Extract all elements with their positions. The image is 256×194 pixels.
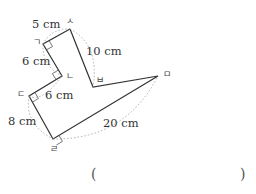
length-label-sb: 10 cm: [86, 46, 122, 58]
vertex-label-r: ㄹ: [50, 145, 58, 154]
vertex-label-d: ㄷ: [17, 90, 25, 99]
length-label-dr: 8 cm: [8, 116, 36, 128]
length-label-gs: 5 cm: [32, 19, 60, 31]
vertex-label-n: ㄴ: [66, 72, 74, 81]
vertex-label-g: ㄱ: [33, 38, 41, 47]
answer-paren-close: ): [240, 167, 245, 181]
answer-paren-open: (: [91, 167, 96, 181]
vertex-label-b: ㅂ: [96, 76, 104, 85]
vertex-label-s: ㅅ: [66, 17, 74, 26]
length-label-nd: 6 cm: [45, 90, 73, 102]
length-label-gn: 6 cm: [22, 56, 50, 68]
length-label-rm: 20 cm: [103, 118, 139, 130]
answer-blank[interactable]: [100, 166, 180, 182]
vertex-label-m: ㅁ: [163, 70, 171, 79]
